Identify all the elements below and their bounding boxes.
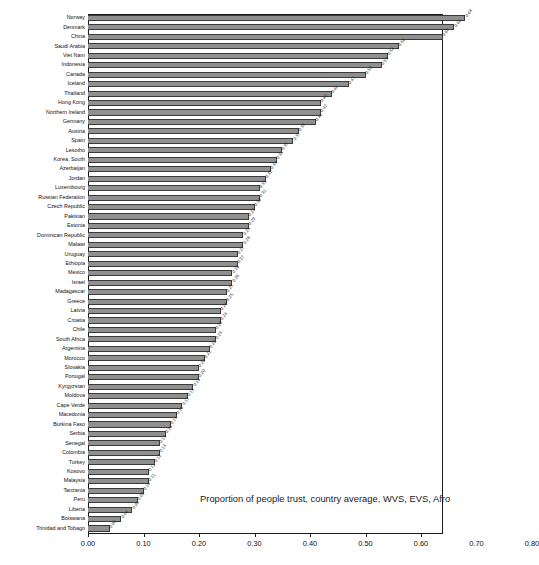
bar — [88, 138, 293, 144]
bar — [88, 299, 227, 305]
category-label: Lesotho — [66, 146, 85, 155]
category-label: Iceland — [68, 79, 85, 88]
bar — [88, 336, 216, 342]
category-label: Canada — [66, 70, 85, 79]
category-label: Mexico — [68, 268, 85, 277]
bar-row: Morocco0.21 — [88, 354, 532, 363]
category-label: Cape Verde — [57, 401, 85, 410]
x-tick-mark — [88, 534, 89, 537]
bar-row: Greece0.25 — [88, 298, 532, 307]
x-tick-mark — [199, 534, 200, 537]
bar — [88, 157, 277, 163]
category-label: Norway — [67, 13, 85, 22]
x-tick-label: 0.30 — [247, 539, 261, 548]
bar — [88, 393, 188, 399]
category-label: Turkey — [69, 458, 85, 467]
bar-row: Russian Federation0.31 — [88, 194, 532, 203]
bar-row: Portugal0.20 — [88, 373, 532, 382]
bar — [88, 488, 144, 494]
bar — [88, 72, 366, 78]
bar — [88, 81, 349, 87]
category-label: China — [71, 32, 85, 41]
bar-row: Saudi Arabia0.56 — [88, 42, 532, 51]
bar — [88, 15, 465, 21]
category-label: Peru — [74, 495, 85, 504]
bar — [88, 478, 149, 484]
category-label: Germany — [63, 117, 85, 126]
category-label: Colombia — [62, 448, 85, 457]
category-label: Ethiopia — [66, 259, 85, 268]
bar — [88, 147, 282, 153]
category-label: Kyrgyzstan — [58, 382, 85, 391]
bar — [88, 176, 266, 182]
bar-row: Austria0.38 — [88, 127, 532, 136]
bar-row: Latvia0.24 — [88, 307, 532, 316]
bar-row: Denmark0.66 — [88, 23, 532, 32]
bar-row: Spain0.37 — [88, 137, 532, 146]
bar — [88, 100, 321, 106]
bar-row: Serbia0.14 — [88, 430, 532, 439]
category-label: Russian Federation — [38, 193, 85, 202]
bar — [88, 185, 260, 191]
bar-row: Madagascar0.25 — [88, 288, 532, 297]
bar-row: Malawi0.28 — [88, 241, 532, 250]
bar — [88, 232, 243, 238]
bar — [88, 327, 216, 333]
category-label: Botswana — [61, 514, 85, 523]
category-label: Portugal — [65, 372, 85, 381]
chart-annotation: Proportion of people trust, country aver… — [200, 493, 450, 504]
bar — [88, 34, 443, 40]
category-label: Uruguay — [65, 250, 85, 259]
category-label: Dominican Republic — [37, 231, 85, 240]
category-label: Malawi — [68, 240, 85, 249]
bar-row: Iceland0.47 — [88, 80, 532, 89]
bar — [88, 62, 382, 68]
bar-row: Argentina0.22 — [88, 345, 532, 354]
bar — [88, 317, 221, 323]
category-label: Malaysia — [64, 476, 85, 485]
bar-row: Lesotho0.35 — [88, 146, 532, 155]
bar-row: Kyrgyzstan0.19 — [88, 383, 532, 392]
bar-row: Czech Republic0.30 — [88, 203, 532, 212]
category-label: Hong Kong — [58, 98, 85, 107]
bar — [88, 374, 199, 380]
bar-row: Trinidad and Tobago0.04 — [88, 525, 532, 534]
category-label: Madagascar — [55, 287, 85, 296]
bar — [88, 403, 182, 409]
bar-row: Malaysia0.11 — [88, 477, 532, 486]
category-label: Jordan — [69, 174, 85, 183]
bar-row: Israel0.26 — [88, 279, 532, 288]
bar — [88, 223, 249, 229]
bar — [88, 53, 388, 59]
bar — [88, 119, 316, 125]
bar — [88, 365, 199, 371]
category-label: Latvia — [71, 306, 85, 315]
bar-row: Thailand0.44 — [88, 90, 532, 99]
bar-row: Slovakia0.20 — [88, 364, 532, 373]
category-label: Azerbaijan — [60, 164, 85, 173]
category-label: Czech Republic — [47, 202, 85, 211]
category-label: Senegal — [65, 439, 85, 448]
x-tick-mark — [366, 534, 367, 537]
category-label: Israel — [72, 278, 85, 287]
bar — [88, 459, 155, 465]
bar — [88, 280, 232, 286]
bar-row: Chile0.23 — [88, 326, 532, 335]
bar-rows-container: Norway0.68Denmark0.66China0.64Saudi Arab… — [88, 14, 532, 534]
category-label: Morocco — [64, 354, 85, 363]
category-label: Denmark — [63, 23, 85, 32]
category-label: Korea, South — [54, 155, 85, 164]
category-label: Greece — [67, 297, 85, 306]
bar — [88, 242, 243, 248]
bar — [88, 355, 205, 361]
bar — [88, 431, 166, 437]
category-label: Luxembourg — [55, 183, 85, 192]
category-label: Pakistan — [64, 212, 85, 221]
bar-row: Luxembourg0.31 — [88, 184, 532, 193]
bar-row: Burkina Faso0.15 — [88, 421, 532, 430]
bar — [88, 346, 210, 352]
bar-row: Mexico0.26 — [88, 269, 532, 278]
x-tick-label: 0.60 — [414, 539, 428, 548]
bar — [88, 261, 238, 267]
